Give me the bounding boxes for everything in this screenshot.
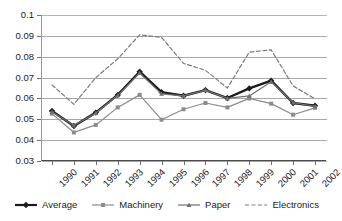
legend-swatch-paper-icon xyxy=(177,200,201,210)
series-machinery xyxy=(50,93,317,135)
legend-swatch-average-icon xyxy=(14,200,38,210)
data-point xyxy=(116,105,120,109)
data-point xyxy=(160,118,164,122)
series-average xyxy=(49,69,318,130)
legend-item-electronics[interactable]: Electronics xyxy=(244,200,318,210)
legend-item-machinery[interactable]: Machinery xyxy=(91,200,163,210)
legend-item-paper[interactable]: Paper xyxy=(177,200,230,210)
legend-label: Machinery xyxy=(119,200,163,210)
chart-legend: AverageMachineryPaperElectronics xyxy=(0,196,333,214)
legend-swatch-electronics-icon xyxy=(244,200,268,210)
data-point xyxy=(269,102,273,106)
data-point xyxy=(203,101,207,105)
series-line xyxy=(52,95,315,133)
series-line xyxy=(52,73,315,126)
legend-item-average[interactable]: Average xyxy=(14,200,77,210)
data-point xyxy=(138,93,142,97)
data-point xyxy=(72,130,76,134)
data-point xyxy=(291,113,295,117)
data-point xyxy=(94,123,98,127)
data-point xyxy=(225,105,229,109)
legend-label: Paper xyxy=(205,200,230,210)
series-paper xyxy=(50,71,318,128)
data-point xyxy=(182,107,186,111)
legend-label: Electronics xyxy=(272,200,318,210)
legend-label: Average xyxy=(42,200,77,210)
legend-swatch-machinery-icon xyxy=(91,200,115,210)
